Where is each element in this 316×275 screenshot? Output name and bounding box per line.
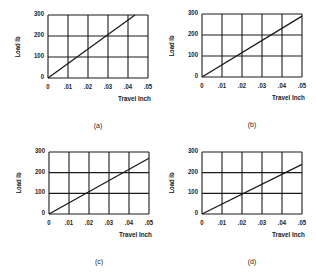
x-tick-label: 0 bbox=[41, 83, 55, 91]
x-tick-label: .03 bbox=[255, 219, 269, 227]
plot-area bbox=[0, 137, 158, 274]
x-tick-label: .02 bbox=[235, 219, 249, 227]
y-axis-label: Load lb bbox=[168, 166, 176, 200]
y-tick-label: 300 bbox=[28, 147, 45, 155]
x-tick-label: 0 bbox=[42, 219, 56, 227]
y-axis-label: Load lb bbox=[14, 30, 22, 64]
x-tick-label: .02 bbox=[81, 83, 95, 91]
x-tick-label: .04 bbox=[122, 219, 136, 227]
y-tick-label: 200 bbox=[181, 30, 198, 38]
y-tick-label: 300 bbox=[181, 9, 198, 17]
plot-area bbox=[158, 137, 316, 274]
y-tick-label: 0 bbox=[27, 73, 44, 81]
x-tick-label: .01 bbox=[62, 219, 76, 227]
panel-caption: (c) bbox=[89, 258, 109, 266]
x-tick-label: .04 bbox=[275, 82, 289, 90]
y-tick-label: 100 bbox=[27, 52, 44, 60]
x-tick-label: .01 bbox=[215, 82, 229, 90]
y-tick-label: 100 bbox=[28, 188, 45, 196]
x-tick-label: .05 bbox=[141, 83, 155, 91]
x-tick-label: .05 bbox=[295, 82, 309, 90]
x-tick-label: .03 bbox=[255, 82, 269, 90]
x-tick-label: .04 bbox=[121, 83, 135, 91]
x-tick-label: .03 bbox=[102, 219, 116, 227]
x-axis-label: Travel Inch bbox=[272, 231, 305, 239]
x-axis-label: Travel Inch bbox=[119, 231, 152, 239]
chart-panel-b: 01002003000.01.02.03.04.05Load lbTravel … bbox=[158, 0, 316, 137]
plot-area bbox=[0, 0, 158, 137]
y-tick-label: 100 bbox=[181, 51, 198, 59]
x-tick-label: .04 bbox=[275, 219, 289, 227]
x-tick-label: .02 bbox=[82, 219, 96, 227]
y-tick-label: 300 bbox=[27, 10, 44, 18]
y-tick-label: 300 bbox=[181, 147, 198, 155]
x-tick-label: 0 bbox=[195, 82, 209, 90]
x-tick-label: 0 bbox=[195, 219, 209, 227]
chart-panel-d: 01002003000.01.02.03.04.05Load lbTravel … bbox=[158, 137, 316, 274]
x-tick-label: .02 bbox=[235, 82, 249, 90]
panel-caption: (a) bbox=[88, 122, 108, 130]
plot-area bbox=[158, 0, 316, 137]
y-tick-label: 200 bbox=[27, 31, 44, 39]
x-tick-label: .03 bbox=[101, 83, 115, 91]
data-line bbox=[202, 16, 302, 77]
x-tick-label: .05 bbox=[142, 219, 156, 227]
data-line bbox=[49, 158, 149, 214]
panel-caption: (d) bbox=[242, 258, 262, 266]
chart-panel-c: 01002003000.01.02.03.04.05Load lbTravel … bbox=[0, 137, 158, 274]
x-axis-label: Travel Inch bbox=[118, 95, 151, 103]
y-tick-label: 200 bbox=[28, 168, 45, 176]
y-axis-label: Load lb bbox=[168, 29, 176, 63]
data-line bbox=[202, 164, 302, 214]
y-tick-label: 0 bbox=[181, 72, 198, 80]
x-tick-label: .01 bbox=[215, 219, 229, 227]
y-tick-label: 0 bbox=[181, 209, 198, 217]
y-axis-label: Load lb bbox=[15, 166, 23, 200]
x-axis-label: Travel Inch bbox=[272, 94, 305, 102]
y-tick-label: 100 bbox=[181, 188, 198, 196]
panel-caption: (b) bbox=[242, 121, 262, 129]
chart-panel-a: 01002003000.01.02.03.04.05Load lbTravel … bbox=[0, 0, 158, 137]
x-tick-label: .05 bbox=[295, 219, 309, 227]
y-tick-label: 200 bbox=[181, 168, 198, 176]
data-line bbox=[48, 15, 135, 78]
x-tick-label: .01 bbox=[61, 83, 75, 91]
y-tick-label: 0 bbox=[28, 209, 45, 217]
